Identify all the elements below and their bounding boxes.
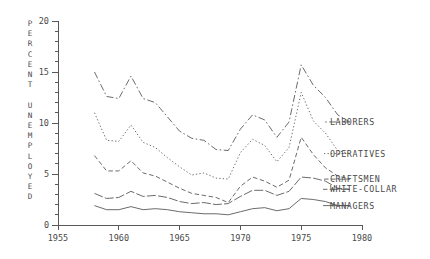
y-axis-title: PERCENTUNEMPLOYED <box>28 19 33 201</box>
series-line-managers <box>94 198 349 214</box>
y-axis: 05101520 <box>39 16 58 230</box>
x-tick-label: 1980 <box>352 233 372 243</box>
y-axis-title-char: P <box>28 141 33 150</box>
series-line-operatives <box>94 92 349 179</box>
series-label-managers: MANAGERS <box>330 201 375 211</box>
chart-canvas: PERCENTUNEMPLOYED 05101520 1955196019651… <box>0 0 430 259</box>
x-axis: 195519601965197019751980 <box>48 225 372 243</box>
x-tick-label: 1960 <box>109 233 129 243</box>
x-tick-label: 1975 <box>291 233 311 243</box>
unemployment-line-chart: PERCENTUNEMPLOYED 05101520 1955196019651… <box>0 0 430 259</box>
series-label-craftsmen: CRAFTSMEN <box>330 174 380 184</box>
y-axis-title-char: M <box>28 131 33 140</box>
y-axis-title-char: E <box>28 182 33 191</box>
y-axis-title-char: O <box>28 162 33 171</box>
x-tick-label: 1970 <box>230 233 250 243</box>
series-labels-group: LABORERSOPERATIVESCRAFTSMENWHITE-COLLARM… <box>330 117 397 211</box>
y-tick-label: 5 <box>44 169 49 179</box>
x-tick-label: 1955 <box>48 233 68 243</box>
plot-series-group <box>94 65 349 215</box>
series-line-craftsmen <box>94 137 349 202</box>
y-axis-title-char: Y <box>28 172 33 181</box>
y-axis-title-char: R <box>28 39 33 48</box>
series-label-laborers: LABORERS <box>330 117 375 127</box>
y-axis-title-char: C <box>28 50 33 59</box>
x-tick-label: 1965 <box>169 233 189 243</box>
y-axis-title-char: N <box>28 70 33 79</box>
y-tick-label: 15 <box>39 67 49 77</box>
y-tick-label: 20 <box>39 16 49 26</box>
series-label-white-collar: WHITE-COLLAR <box>330 184 397 194</box>
y-tick-label: 0 <box>44 220 49 230</box>
y-axis-title-char: T <box>28 80 33 89</box>
y-axis-title-char: E <box>28 29 33 38</box>
y-axis-title-char: E <box>28 121 33 130</box>
y-tick-label: 10 <box>39 118 49 128</box>
y-axis-title-char: U <box>28 101 33 110</box>
series-line-laborers <box>94 65 349 151</box>
y-axis-title-char: L <box>28 152 33 161</box>
y-axis-title-char: N <box>28 111 33 120</box>
y-axis-title-char: D <box>28 192 33 201</box>
series-label-operatives: OPERATIVES <box>330 149 386 159</box>
y-axis-title-char: P <box>28 19 33 28</box>
y-axis-title-char: E <box>28 60 33 69</box>
